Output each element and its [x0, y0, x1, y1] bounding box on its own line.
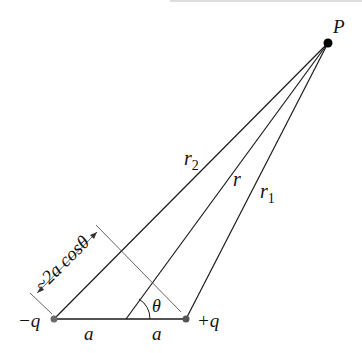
r-label: r: [233, 168, 241, 190]
perpendicular-line: [96, 225, 181, 312]
half-separation-right-label: a: [152, 323, 162, 344]
r2-label: r2: [184, 147, 199, 173]
point-p-label: P: [332, 16, 345, 37]
r1-label: r1: [260, 180, 275, 206]
r2-line: [54, 43, 328, 319]
angle-theta-label: θ: [152, 296, 161, 316]
angle-arc: [139, 299, 150, 319]
point-p-dot: [324, 39, 333, 48]
r1-line: [186, 43, 328, 319]
negative-charge-dot: [51, 316, 58, 323]
path-difference-label: ~2a cosθ: [30, 231, 93, 294]
half-separation-left-label: a: [84, 323, 94, 344]
negative-charge-label: −q: [18, 310, 41, 331]
r-line: [126, 43, 328, 319]
positive-charge-dot: [183, 316, 190, 323]
positive-charge-label: +q: [197, 310, 220, 331]
dipole-diagram: P −q +q a a θ r2 r r1 ~2a cosθ: [0, 0, 362, 353]
